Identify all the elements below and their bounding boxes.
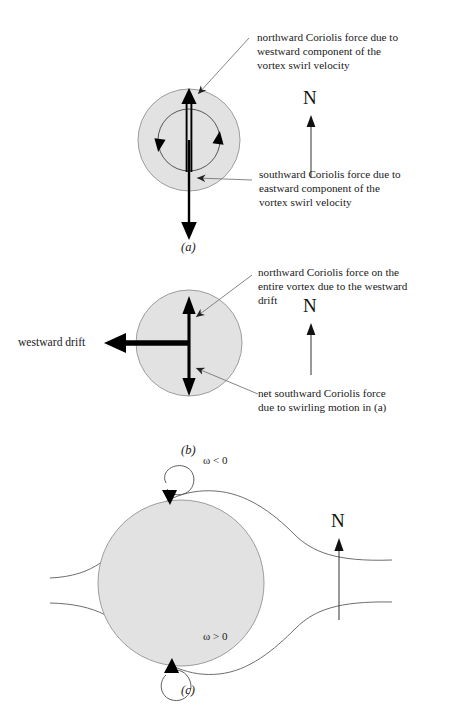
compass-letter-b: N xyxy=(303,295,317,317)
north-arrow-icon xyxy=(307,115,316,127)
north-arrow-icon xyxy=(307,323,316,335)
compass-letter-c: N xyxy=(331,510,345,532)
coriolis-vortex-figure xyxy=(0,0,450,717)
compass-north-c xyxy=(334,538,343,620)
omega-positive-label: ω > 0 xyxy=(203,630,227,642)
annotation-northward-drift: northward Coriolis force on the entire v… xyxy=(258,265,448,308)
leader-northward-swirl xyxy=(198,38,249,94)
annotation-northward-swirl: northward Coriolis force due to westward… xyxy=(257,30,442,73)
panel-label-b: (b) xyxy=(181,443,196,458)
north-arrow-icon xyxy=(334,538,343,551)
vorticity-curl-top xyxy=(162,466,194,505)
compass-letter-a: N xyxy=(303,87,317,109)
panel-c xyxy=(50,466,392,701)
panel-label-a: (a) xyxy=(181,240,196,255)
compass-north-b xyxy=(307,323,316,375)
annotation-net-southward: net southward Coriolis force due to swir… xyxy=(258,386,448,414)
annotation-southward-swirl: southward Coriolis force due to eastward… xyxy=(259,167,444,210)
panel-label-c: (c) xyxy=(181,683,195,698)
westward-drift-label: westward drift xyxy=(18,336,85,349)
omega-negative-label: ω < 0 xyxy=(203,454,227,466)
vortex-disk xyxy=(98,500,264,666)
